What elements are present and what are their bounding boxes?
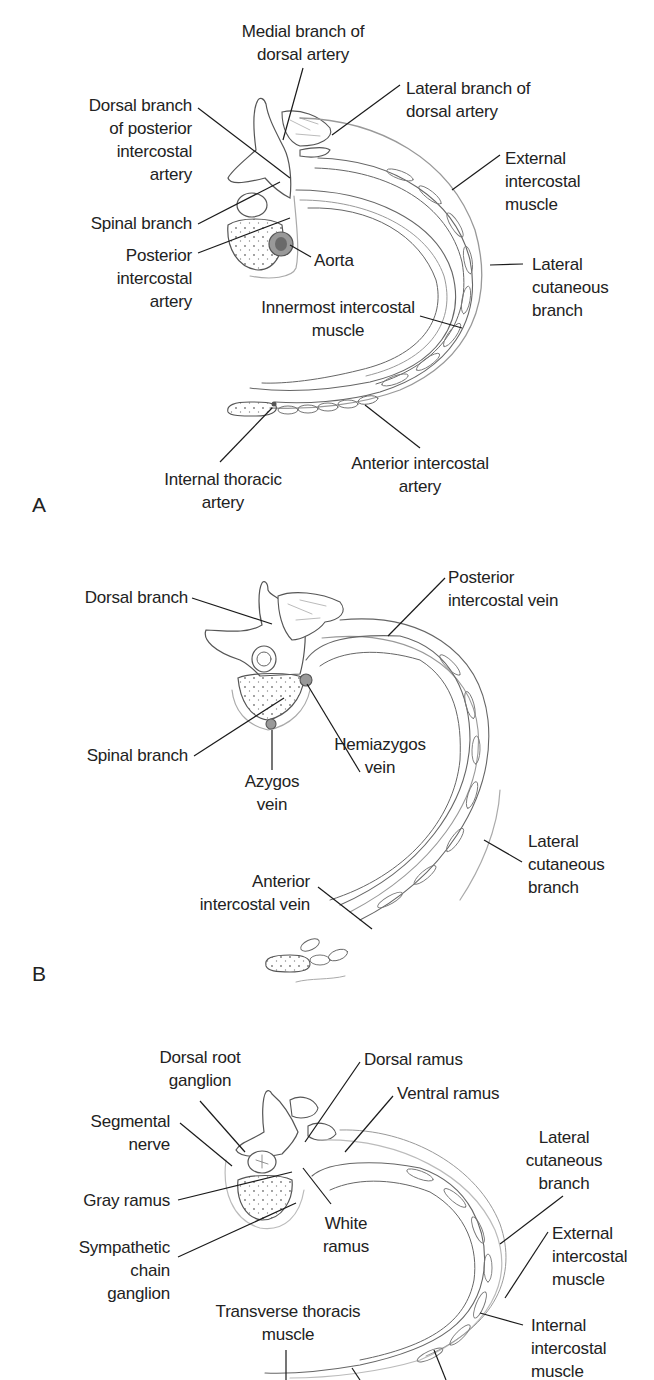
panel-a-artwork — [228, 98, 482, 416]
back-muscle-b — [278, 593, 343, 640]
label-b-spinal-branch: Spinal branch — [40, 744, 188, 767]
label-c-lateral-cutaneous-branch: Lateral cutaneous branch — [512, 1126, 616, 1195]
label-c-segmental-nerve: Segmental nerve — [40, 1110, 170, 1156]
label-b-lateral-cutaneous-branch: Lateral cutaneous branch — [528, 830, 605, 899]
label-a-medial-branch-dorsal-artery: Medial branch of dorsal artery — [218, 20, 388, 66]
label-a-spinal-branch: Spinal branch — [40, 212, 192, 235]
label-c-dorsal-root-ganglion: Dorsal root ganglion — [130, 1046, 270, 1092]
label-c-ventral-ramus: Ventral ramus — [397, 1082, 499, 1105]
vertebra-a-spinous-process — [228, 98, 291, 198]
label-c-dorsal-ramus: Dorsal ramus — [364, 1048, 463, 1071]
label-c-white-ramus: White ramus — [310, 1212, 382, 1258]
vertebra-b-spinal-cord — [252, 646, 276, 672]
label-c-gray-ramus: Gray ramus — [40, 1189, 170, 1212]
label-b-hemiazygos-vein: Hemiazygos vein — [316, 733, 444, 779]
panel-letter-a: A — [32, 493, 46, 517]
label-a-aorta: Aorta — [314, 249, 354, 272]
vertebra-c-spinous-process — [236, 1091, 298, 1157]
label-a-external-intercostal-muscle: External intercostal muscle — [505, 147, 580, 216]
internal-thoracic-artery-a — [272, 402, 277, 407]
panel-letter-b: B — [32, 962, 46, 986]
vertebra-c-body — [238, 1176, 292, 1221]
rib-arc-a-outer — [270, 118, 482, 408]
azygos-vein-b — [266, 719, 276, 729]
label-b-azygos-vein: Azygos vein — [232, 770, 312, 816]
costal-cartilage-a — [228, 402, 277, 416]
label-a-anterior-intercostal-artery: Anterior intercostal artery — [325, 452, 515, 498]
vertebra-b-body — [238, 674, 304, 721]
label-a-dorsal-branch-posterior-intercostal-artery: Dorsal branch of posterior intercostal a… — [40, 94, 192, 186]
label-c-sympathetic-chain-ganglion: Sympathetic chain ganglion — [40, 1236, 170, 1305]
costal-cartilage-b — [266, 955, 310, 972]
label-c-transverse-thoracis-muscle: Transverse thoracis muscle — [188, 1300, 388, 1346]
label-c-external-intercostal-muscle: External intercostal muscle — [552, 1222, 627, 1291]
label-a-lateral-branch-dorsal-artery: Lateral branch of dorsal artery — [406, 77, 530, 123]
label-b-dorsal-branch: Dorsal branch — [40, 586, 188, 609]
label-a-lateral-cutaneous-branch: Lateral cutaneous branch — [532, 253, 609, 322]
label-c-internal-intercostal-muscle: Internal intercostal muscle — [531, 1314, 606, 1380]
back-muscle-c — [290, 1097, 318, 1118]
label-b-anterior-intercostal-vein: Anterior intercostal vein — [160, 870, 310, 916]
label-a-posterior-intercostal-artery: Posterior intercostal artery — [40, 244, 192, 313]
label-b-posterior-intercostal-vein: Posterior intercostal vein — [448, 566, 558, 612]
hemiazygos-vein-b — [300, 674, 312, 686]
label-a-innermost-intercostal-muscle: Innermost intercostal muscle — [238, 296, 438, 342]
label-a-internal-thoracic-artery: Internal thoracic artery — [138, 468, 308, 514]
